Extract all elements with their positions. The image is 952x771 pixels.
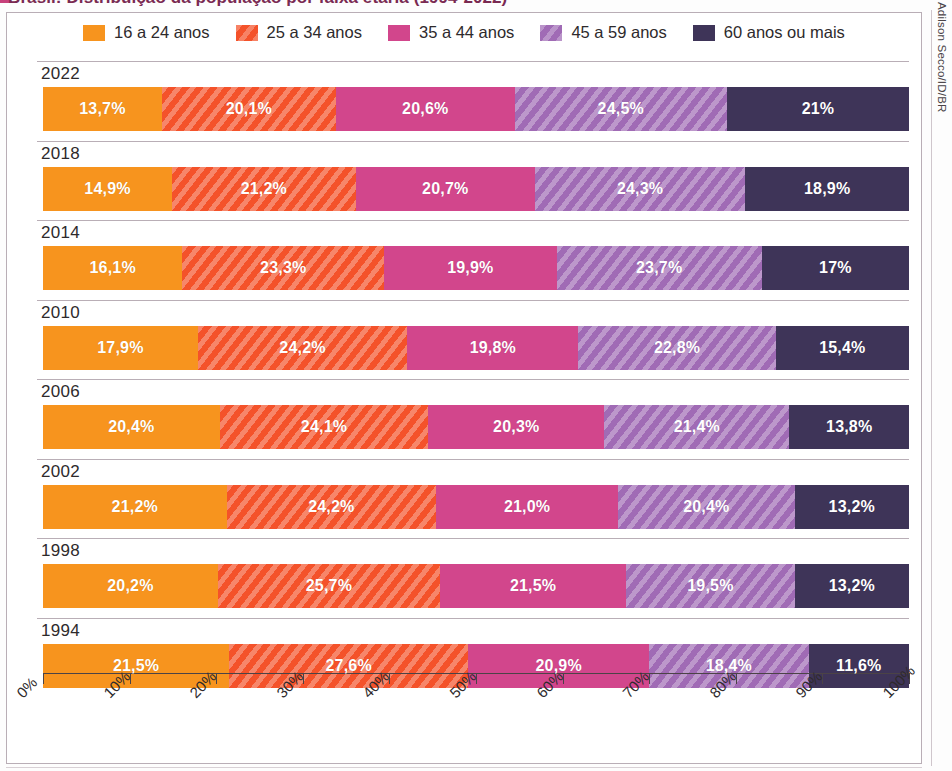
row-divider <box>37 61 909 62</box>
row-divider <box>37 379 909 380</box>
chart-row: 201416,1%23,3%19,9%23,7%17% <box>37 220 909 300</box>
bar-segment-value: 17% <box>819 259 852 277</box>
bar-segment[interactable]: 19,9% <box>384 246 556 290</box>
bar-segment[interactable]: 20,1% <box>162 87 336 131</box>
row-year-label: 2022 <box>41 64 80 84</box>
bar-segment-value: 20,9% <box>536 657 582 675</box>
bar-segment[interactable]: 23,7% <box>557 246 762 290</box>
bar-segment[interactable]: 20,2% <box>43 564 218 608</box>
bar-segment-value: 27,6% <box>326 657 372 675</box>
bar-segment[interactable]: 13,2% <box>795 485 909 529</box>
bar-segment-value: 21,2% <box>112 498 158 516</box>
legend-item-4[interactable]: 45 a 59 anos <box>540 23 666 42</box>
legend-swatch-icon <box>83 25 105 41</box>
stacked-bar: 21,2%24,2%21,0%20,4%13,2% <box>43 485 909 529</box>
chart-plot-area: 202213,7%20,1%20,6%24,5%21%201814,9%21,2… <box>7 61 921 763</box>
legend-item-3[interactable]: 35 a 44 anos <box>388 23 514 42</box>
bar-segment-value: 20,1% <box>226 100 272 118</box>
bar-segment[interactable]: 19,5% <box>626 564 795 608</box>
legend-label: 35 a 44 anos <box>419 23 514 42</box>
bar-segment[interactable]: 22,8% <box>578 326 775 370</box>
row-year-label: 1998 <box>41 541 80 561</box>
bar-segment-value: 24,3% <box>617 180 663 198</box>
bar-segment[interactable]: 21,4% <box>604 405 789 449</box>
bar-segment[interactable]: 21,0% <box>436 485 618 529</box>
bar-segment[interactable]: 21,5% <box>440 564 626 608</box>
bar-segment[interactable]: 21% <box>727 87 909 131</box>
bar-segment[interactable]: 23,3% <box>182 246 384 290</box>
row-year-label: 2018 <box>41 144 80 164</box>
bar-segment[interactable]: 14,9% <box>43 167 172 211</box>
bar-segment[interactable]: 15,4% <box>776 326 909 370</box>
bar-segment-value: 22,8% <box>654 339 700 357</box>
bar-segment-value: 23,7% <box>636 259 682 277</box>
bar-segment[interactable]: 20,4% <box>618 485 795 529</box>
chart-frame: 16 a 24 anos25 a 34 anos35 a 44 anos45 a… <box>6 12 922 764</box>
bar-segment[interactable]: 21,2% <box>43 485 227 529</box>
bar-segment-value: 16,1% <box>90 259 136 277</box>
bar-segment-value: 20,2% <box>107 577 153 595</box>
stacked-bar: 16,1%23,3%19,9%23,7%17% <box>43 246 909 290</box>
row-divider <box>37 141 909 142</box>
bar-segment[interactable]: 20,4% <box>43 405 220 449</box>
bar-segment-value: 13,2% <box>829 498 875 516</box>
bar-segment-value: 18,4% <box>706 657 752 675</box>
bar-segment[interactable]: 18,9% <box>745 167 909 211</box>
legend-item-5[interactable]: 60 anos ou mais <box>693 23 845 42</box>
bar-segment[interactable]: 24,3% <box>535 167 745 211</box>
row-divider <box>37 220 909 221</box>
bar-segment-value: 24,2% <box>308 498 354 516</box>
row-year-label: 2010 <box>41 303 80 323</box>
page-title: Brasil: Distribuição da população por fa… <box>8 0 507 8</box>
bar-segment[interactable]: 13,8% <box>789 405 909 449</box>
bar-segment-value: 24,5% <box>598 100 644 118</box>
figure-title-strip: Brasil: Distribuição da população por fa… <box>0 0 930 11</box>
chart-row: 201017,9%24,2%19,8%22,8%15,4% <box>37 300 909 380</box>
bar-segment[interactable]: 25,7% <box>218 564 440 608</box>
row-year-label: 2002 <box>41 462 80 482</box>
bar-segment-value: 18,9% <box>804 180 850 198</box>
bar-segment[interactable]: 13,2% <box>795 564 909 608</box>
legend-item-1[interactable]: 16 a 24 anos <box>83 23 209 42</box>
chart-row: 199820,2%25,7%21,5%19,5%13,2% <box>37 538 909 618</box>
bar-segment[interactable]: 20,6% <box>336 87 515 131</box>
bar-segment-value: 15,4% <box>819 339 865 357</box>
bar-segment[interactable]: 20,3% <box>428 405 604 449</box>
bar-segment[interactable]: 17% <box>762 246 909 290</box>
bar-segment-value: 24,2% <box>279 339 325 357</box>
legend-swatch-icon <box>388 25 410 41</box>
stacked-bar: 13,7%20,1%20,6%24,5%21% <box>43 87 909 131</box>
bar-segment[interactable]: 24,2% <box>198 326 407 370</box>
bar-segment[interactable]: 13,7% <box>43 87 162 131</box>
x-axis-tick <box>43 673 44 684</box>
row-year-label: 1994 <box>41 621 80 641</box>
segment-hatch-pattern <box>540 25 562 41</box>
legend-label: 25 a 34 anos <box>267 23 362 42</box>
bar-segment[interactable]: 21,2% <box>172 167 356 211</box>
chart-figure: Brasil: Distribuição da população por fa… <box>0 0 952 771</box>
bar-segment-value: 13,7% <box>79 100 125 118</box>
bar-segment[interactable]: 24,2% <box>227 485 437 529</box>
bar-segment[interactable]: 16,1% <box>43 246 182 290</box>
stacked-bar: 14,9%21,2%20,7%24,3%18,9% <box>43 167 909 211</box>
chart-row: 200221,2%24,2%21,0%20,4%13,2% <box>37 459 909 539</box>
stacked-bar: 17,9%24,2%19,8%22,8%15,4% <box>43 326 909 370</box>
legend-item-2[interactable]: 25 a 34 anos <box>236 23 362 42</box>
bar-segment[interactable]: 17,9% <box>43 326 198 370</box>
bar-segment[interactable]: 20,7% <box>356 167 535 211</box>
bar-segment-value: 19,5% <box>687 577 733 595</box>
chart-row: 200620,4%24,1%20,3%21,4%13,8% <box>37 379 909 459</box>
bar-segment-value: 11,6% <box>836 657 881 675</box>
credit-divider <box>931 10 932 766</box>
bar-segment[interactable]: 24,1% <box>220 405 429 449</box>
bar-segment-value: 21,5% <box>510 577 556 595</box>
bar-segment[interactable]: 24,5% <box>515 87 727 131</box>
x-axis: 0%10%20%30%40%50%60%70%80%90%100% <box>43 673 909 687</box>
bar-segment-value: 21,5% <box>113 657 159 675</box>
bar-segment-value: 21,0% <box>504 498 550 516</box>
stacked-bar: 20,2%25,7%21,5%19,5%13,2% <box>43 564 909 608</box>
bar-segment[interactable]: 19,8% <box>407 326 578 370</box>
row-divider <box>37 618 909 619</box>
legend-label: 16 a 24 anos <box>114 23 209 42</box>
row-divider <box>37 300 909 301</box>
